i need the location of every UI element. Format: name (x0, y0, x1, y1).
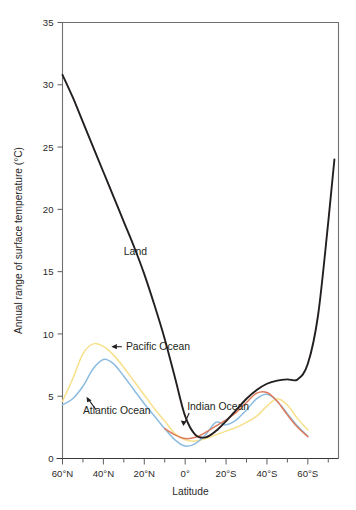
series-line-indian-ocean (165, 392, 308, 439)
annotation-label: Pacific Ocean (126, 341, 190, 352)
x-axis-ticks: 60°N40°N20°N0°20°S40°S60°S (52, 459, 339, 479)
annotation-arrowhead (87, 397, 92, 403)
x-tick-label: 20°N (134, 468, 156, 479)
y-tick-label: 30 (43, 79, 54, 90)
x-tick-label: 0° (181, 468, 190, 479)
y-tick-label: 0 (48, 453, 53, 464)
y-axis-ticks: 05101520253035 (43, 17, 63, 464)
y-axis-title: Annual range of surface temperature (°C) (13, 147, 24, 334)
x-axis-title: Latitude (172, 486, 209, 497)
axis-frame-path (63, 23, 339, 459)
y-tick-label: 20 (43, 204, 54, 215)
x-tick-label: 60°N (52, 468, 74, 479)
x-tick-label: 60°S (297, 468, 318, 479)
plot-frame (63, 23, 339, 459)
series-line-pacific-ocean (63, 343, 308, 441)
series-annotations: LandPacific OceanAtlantic OceanIndian Oc… (83, 246, 249, 425)
series-lines (63, 75, 335, 446)
annotation-label: Land (124, 246, 147, 257)
x-tick-label: 40°S (256, 468, 277, 479)
y-tick-label: 15 (43, 266, 54, 277)
series-line-land (63, 75, 335, 438)
y-tick-label: 25 (43, 142, 54, 153)
y-tick-label: 35 (43, 17, 54, 28)
x-tick-label: 40°N (93, 468, 115, 479)
annotation-arrowhead (111, 344, 117, 349)
x-tick-label: 20°S (216, 468, 237, 479)
y-tick-label: 10 (43, 329, 54, 340)
annual-temperature-range-chart: 05101520253035 60°N40°N20°N0°20°S40°S60°… (0, 0, 356, 510)
y-tick-label: 5 (48, 391, 53, 402)
annotation-label: Indian Ocean (187, 401, 249, 412)
chart-figure: 05101520253035 60°N40°N20°N0°20°S40°S60°… (0, 0, 356, 510)
